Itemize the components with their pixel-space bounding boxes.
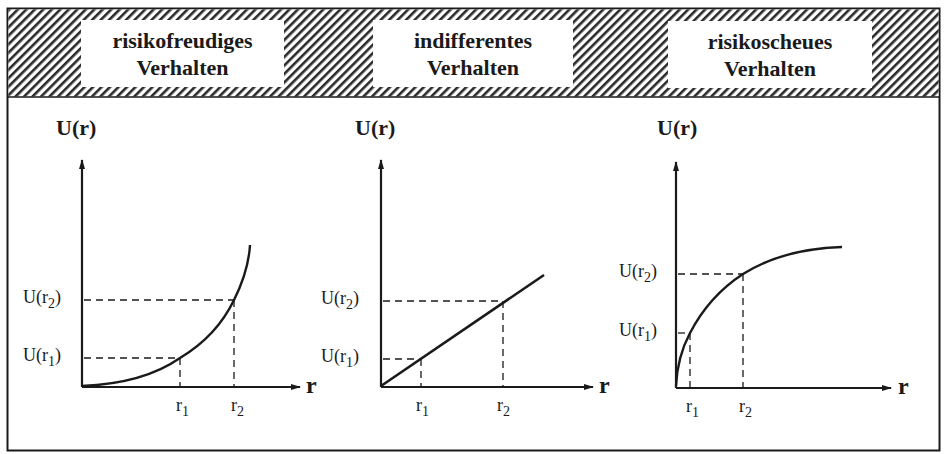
y-tick-u-r1: U(r1) bbox=[619, 320, 657, 345]
x-tick-r2: r2 bbox=[497, 395, 510, 420]
x-axis-label: r bbox=[306, 372, 317, 399]
x-axis-label: r bbox=[599, 372, 610, 399]
title-line1: indifferentes bbox=[414, 27, 532, 54]
title-line2: Verhalten bbox=[136, 54, 228, 81]
y-tick-u-r1: U(r1) bbox=[23, 345, 61, 370]
title-risk-neutral: indifferentes Verhalten bbox=[373, 20, 573, 87]
title-line1: risikoscheues bbox=[708, 28, 833, 55]
x-tick-r1: r1 bbox=[686, 396, 699, 421]
title-line2: Verhalten bbox=[427, 54, 519, 81]
title-risk-seeking: risikofreudiges Verhalten bbox=[81, 20, 284, 87]
title-line2: Verhalten bbox=[724, 55, 816, 82]
x-tick-r2: r2 bbox=[231, 395, 244, 420]
y-tick-u-r2: U(r2) bbox=[23, 287, 61, 312]
title-line1: risikofreudiges bbox=[112, 27, 252, 54]
x-axis-label: r bbox=[898, 373, 909, 400]
x-tick-r1: r1 bbox=[416, 395, 429, 420]
x-tick-r1: r1 bbox=[176, 395, 189, 420]
title-risk-averse: risikoscheues Verhalten bbox=[668, 21, 872, 88]
y-tick-u-r2: U(r2) bbox=[619, 261, 657, 286]
y-axis-label: U(r) bbox=[56, 115, 96, 141]
y-axis-label: U(r) bbox=[657, 115, 697, 141]
y-tick-u-r1: U(r1) bbox=[321, 346, 359, 371]
y-axis-label: U(r) bbox=[355, 115, 395, 141]
y-tick-u-r2: U(r2) bbox=[321, 288, 359, 313]
x-tick-r2: r2 bbox=[739, 396, 752, 421]
